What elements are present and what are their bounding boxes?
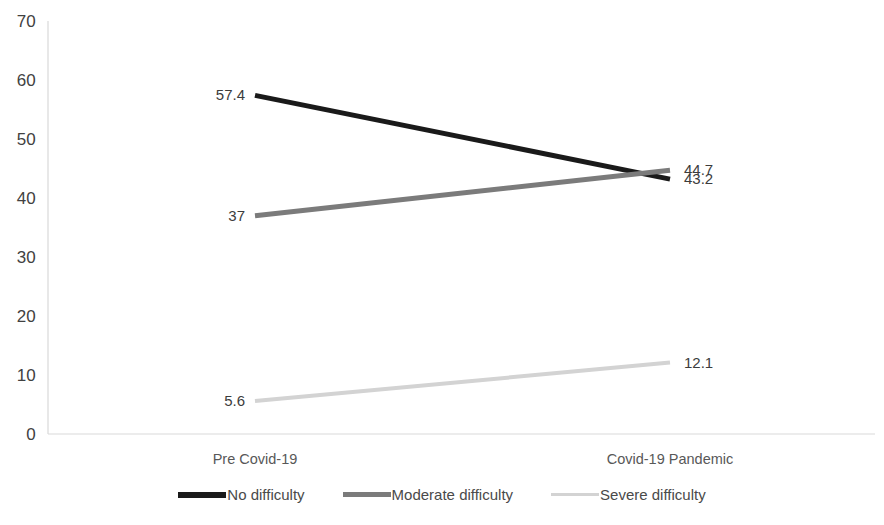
y-tick-label: 50 — [0, 131, 36, 148]
y-tick-label: 30 — [0, 249, 36, 266]
legend-label-moderate-difficulty: Moderate difficulty — [392, 487, 513, 502]
x-category-label: Pre Covid-19 — [155, 452, 355, 467]
y-tick-label: 40 — [0, 190, 36, 207]
bottom-cutoff-text — [0, 517, 884, 525]
legend-item-no-difficulty[interactable]: No difficulty — [178, 487, 304, 502]
data-point-label: 44.7 — [684, 162, 713, 177]
y-tick-label: 0 — [0, 426, 36, 443]
series-line-severe-difficulty — [255, 363, 670, 401]
y-tick-label: 60 — [0, 72, 36, 89]
x-category-label: Covid-19 Pandemic — [570, 452, 770, 467]
legend-item-moderate-difficulty[interactable]: Moderate difficulty — [343, 487, 513, 502]
y-tick-label: 10 — [0, 367, 36, 384]
series-lines-group — [255, 95, 670, 401]
data-point-label: 5.6 — [224, 393, 245, 408]
data-point-label: 37 — [228, 208, 245, 223]
legend-item-severe-difficulty[interactable]: Severe difficulty — [551, 487, 706, 502]
data-point-label: 57.4 — [216, 87, 245, 102]
line-chart: 010203040506070 Pre Covid-19Covid-19 Pan… — [0, 0, 884, 525]
data-point-label: 12.1 — [684, 355, 713, 370]
legend-swatch-icon-severe-difficulty — [551, 493, 599, 496]
legend-label-no-difficulty: No difficulty — [227, 487, 304, 502]
chart-plot-area — [0, 0, 884, 525]
legend-swatch-icon-moderate-difficulty — [343, 492, 391, 497]
legend-swatch-icon-no-difficulty — [178, 492, 226, 498]
y-tick-label: 20 — [0, 308, 36, 325]
y-tick-label: 70 — [0, 13, 36, 30]
chart-legend: No difficulty Moderate difficulty Severe… — [0, 487, 884, 502]
series-line-no-difficulty — [255, 95, 670, 179]
series-line-moderate-difficulty — [255, 170, 670, 215]
legend-label-severe-difficulty: Severe difficulty — [600, 487, 706, 502]
